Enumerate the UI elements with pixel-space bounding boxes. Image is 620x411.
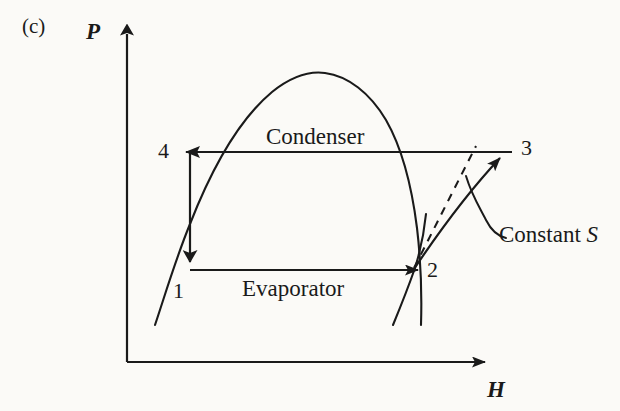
constant-entropy-prefix: Constant: [499, 222, 587, 247]
entropy-symbol: S: [587, 222, 599, 247]
enthalpy-axis-label: H: [487, 378, 505, 401]
condenser-label: Condenser: [266, 125, 364, 148]
state-point-2-label: 2: [427, 259, 438, 281]
state-point-4-label: 4: [158, 140, 169, 162]
state-point-1-label: 1: [173, 280, 184, 302]
state-point-3-label: 3: [521, 137, 532, 159]
diagram-canvas: [0, 0, 620, 411]
evaporator-label: Evaporator: [242, 277, 344, 300]
figure-container: (c) P H 4 1 2 3 Condenser Evaporator Con…: [0, 0, 620, 411]
pressure-axis-label: P: [86, 20, 100, 43]
constant-entropy-label: Constant S: [499, 223, 598, 246]
panel-label: (c): [22, 16, 45, 37]
constant-entropy-dashed-line: [414, 146, 476, 268]
